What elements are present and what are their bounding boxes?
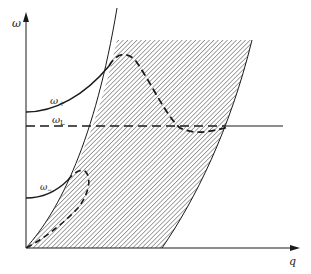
- omega-L-subscript: L: [60, 119, 65, 127]
- omega-plus-label: ω: [50, 95, 58, 106]
- y-axis-arrow-icon: [23, 12, 29, 22]
- y-axis-label: ω: [12, 17, 21, 30]
- dispersion-diagram: ω q ω + ω L ω −: [0, 0, 311, 274]
- omega-plus-subscript: +: [59, 100, 65, 108]
- x-axis-label: q: [289, 255, 296, 268]
- omega-plus-solid: [26, 66, 109, 112]
- omega-L-label: ω: [52, 114, 60, 125]
- x-axis-arrow-icon: [290, 245, 300, 251]
- omega-minus-subscript: −: [47, 186, 52, 193]
